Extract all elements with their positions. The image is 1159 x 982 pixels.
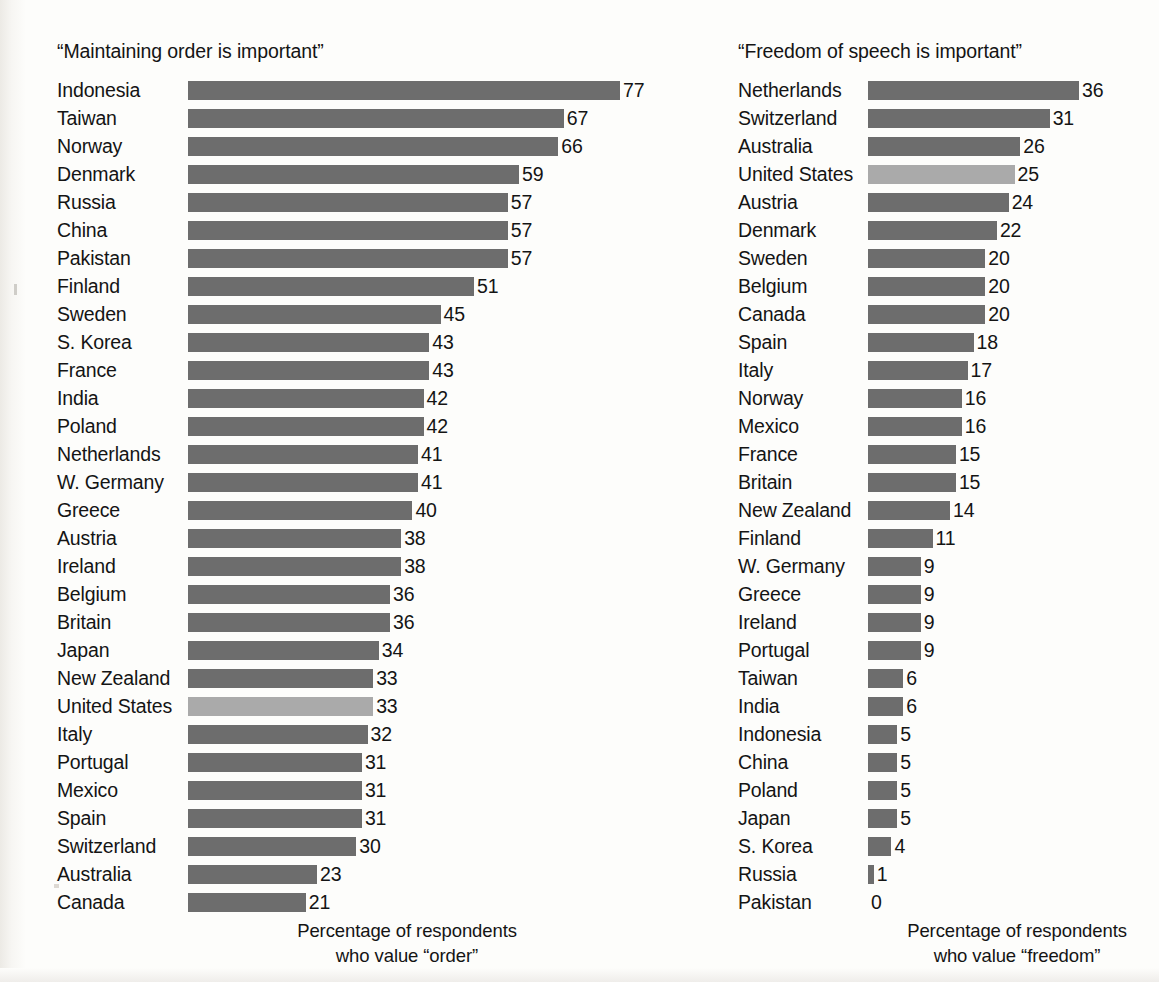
bar-row: New Zealand14 <box>680 499 1159 527</box>
bar-row-label: Australia <box>738 135 813 158</box>
bar-row-label: Ireland <box>738 611 797 634</box>
bar-value-label: 9 <box>924 639 935 662</box>
bar-row-label: Greece <box>57 499 120 522</box>
bar-row: Ireland9 <box>680 611 1159 639</box>
bar <box>188 781 362 800</box>
bar-row-label: Taiwan <box>738 667 798 690</box>
bar-row-label: Britain <box>57 611 111 634</box>
bar-row: Finland51 <box>0 275 700 303</box>
bar <box>868 473 956 492</box>
bar <box>868 753 897 772</box>
bar-row-label: Sweden <box>57 303 127 326</box>
bar-value-label: 57 <box>511 247 532 270</box>
bar-row: Japan5 <box>680 807 1159 835</box>
bar-row-label: Ireland <box>57 555 116 578</box>
bar-row: Russia57 <box>0 191 700 219</box>
bar <box>868 361 968 380</box>
bar <box>188 641 379 660</box>
bar-row-label: Canada <box>738 303 805 326</box>
axis-caption-line2: who value “order” <box>188 943 626 968</box>
bar-value-label: 36 <box>393 583 414 606</box>
bar-rows-order: Indonesia77Taiwan67Norway66Denmark59Russ… <box>0 79 700 919</box>
bar-value-label: 15 <box>959 471 980 494</box>
bar-value-label: 59 <box>522 163 543 186</box>
bar-value-label: 20 <box>988 275 1009 298</box>
bar <box>868 137 1020 156</box>
bar-row: Portugal31 <box>0 751 700 779</box>
bar <box>868 781 897 800</box>
bar-row-label: Spain <box>57 807 106 830</box>
bar <box>868 193 1009 212</box>
bar <box>868 277 985 296</box>
bar <box>188 81 620 100</box>
bar-value-label: 24 <box>1012 191 1033 214</box>
bar-row-label: Greece <box>738 583 801 606</box>
bar-row: Netherlands36 <box>680 79 1159 107</box>
bar-row: Russia1 <box>680 863 1159 891</box>
bar-value-label: 21 <box>309 891 330 914</box>
bar-row-label: Mexico <box>738 415 799 438</box>
bar-row: United States25 <box>680 163 1159 191</box>
bar-value-label: 20 <box>988 303 1009 326</box>
bar-value-label: 33 <box>376 667 397 690</box>
axis-caption-freedom: Percentage of respondents who value “fre… <box>868 918 1159 968</box>
bar-value-label: 38 <box>404 555 425 578</box>
bar <box>188 305 441 324</box>
bar <box>188 277 474 296</box>
bar-value-label: 5 <box>900 807 911 830</box>
bar <box>868 249 985 268</box>
bar-value-label: 36 <box>1082 79 1103 102</box>
bar <box>868 529 933 548</box>
bar-row-label: India <box>57 387 99 410</box>
bar-row-label: Switzerland <box>738 107 837 130</box>
bar <box>188 221 508 240</box>
bar <box>868 445 956 464</box>
bar-row: Taiwan6 <box>680 667 1159 695</box>
bar-row-label: W. Germany <box>738 555 845 578</box>
bar-row-label: Sweden <box>738 247 808 270</box>
bar <box>188 473 418 492</box>
bar-row: New Zealand33 <box>0 667 700 695</box>
bar-row: Sweden45 <box>0 303 700 331</box>
bar-row-label: Poland <box>738 779 798 802</box>
bar-value-label: 31 <box>365 751 386 774</box>
bar-row-label: S. Korea <box>738 835 813 858</box>
bar-row-label: Poland <box>57 415 117 438</box>
bar-row: Pakistan57 <box>0 247 700 275</box>
bar <box>188 837 356 856</box>
bar-value-label: 57 <box>511 219 532 242</box>
bar-value-label: 34 <box>382 639 403 662</box>
bar-value-label: 33 <box>376 695 397 718</box>
bar <box>868 697 903 716</box>
bar-row-label: Australia <box>57 863 132 886</box>
bar <box>188 501 412 520</box>
bar <box>868 809 897 828</box>
bar <box>188 333 429 352</box>
bar-value-label: 31 <box>1053 107 1074 130</box>
bar-row: Switzerland31 <box>680 107 1159 135</box>
bar-row: Canada21 <box>0 891 700 919</box>
bar <box>188 613 390 632</box>
bar-value-label: 5 <box>900 751 911 774</box>
bar-value-label: 9 <box>924 555 935 578</box>
bar-row: Mexico31 <box>0 779 700 807</box>
bar-row-label: United States <box>738 163 853 186</box>
bar-row: Spain18 <box>680 331 1159 359</box>
bar <box>188 193 508 212</box>
bar-row-label: France <box>738 443 798 466</box>
bar-value-label: 57 <box>511 191 532 214</box>
bar-row-label: Italy <box>57 723 92 746</box>
bar-row-label: Portugal <box>57 751 128 774</box>
bar <box>188 585 390 604</box>
bar-row: S. Korea43 <box>0 331 700 359</box>
bar <box>868 613 921 632</box>
bar-value-label: 6 <box>906 667 917 690</box>
bar-row: Italy32 <box>0 723 700 751</box>
bar-row: Netherlands41 <box>0 443 700 471</box>
bar-row: Australia26 <box>680 135 1159 163</box>
bar-value-label: 23 <box>320 863 341 886</box>
bar-row-label: Denmark <box>57 163 135 186</box>
bar-value-label: 42 <box>427 415 448 438</box>
bar-value-label: 11 <box>935 527 955 550</box>
bar-row: Indonesia77 <box>0 79 700 107</box>
